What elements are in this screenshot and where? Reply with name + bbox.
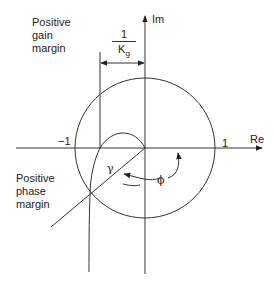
phi-arrow [168, 153, 179, 178]
tick-neg-one: −1 [58, 135, 71, 148]
inverse-gain-label: 1 Kg [112, 28, 136, 60]
phase-margin-line [51, 148, 145, 227]
gamma-arrow [124, 174, 160, 180]
real-axis-label: Re [250, 133, 264, 146]
imaginary-axis-label: Im [152, 13, 164, 26]
phi-label: ϕ [157, 174, 165, 187]
gain-margin-label: Positive gain margin [32, 16, 71, 55]
phi-arc-left [123, 184, 140, 186]
gamma-label: γ [107, 162, 114, 175]
phase-margin-label: Positive phase margin [16, 172, 55, 211]
tick-pos-one: 1 [222, 137, 228, 150]
nyquist-curve [89, 133, 145, 272]
